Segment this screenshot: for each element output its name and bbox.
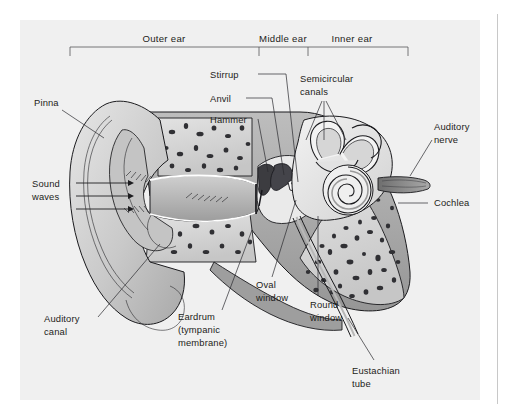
auditory-canal <box>150 176 256 222</box>
cochlea-spiral <box>323 165 373 215</box>
label-round-window-line1: Round <box>310 299 338 310</box>
section-label-middle-ear: Middle ear <box>259 33 307 44</box>
label-round-window-line2: window <box>309 312 342 323</box>
label-cochlea: Cochlea <box>434 197 470 208</box>
label-eustachian-line2: tube <box>352 378 371 389</box>
label-hammer: Hammer <box>210 114 247 125</box>
label-auditory-nerve-line1: Auditory <box>434 121 470 132</box>
label-semicircular-line2: canals <box>300 86 328 97</box>
label-auditory-canal-line2: canal <box>44 326 67 337</box>
label-eardrum-line2: (tympanic <box>178 324 220 335</box>
label-eustachian-line1: Eustachian <box>352 365 400 376</box>
ear-anatomy-figure: Outer ear Middle ear Inner ear <box>0 0 513 418</box>
label-stirrup: Stirrup <box>210 69 239 80</box>
label-semicircular-line1: Semicircular <box>300 73 353 84</box>
label-auditory-nerve-line2: nerve <box>434 134 458 145</box>
section-label-inner-ear: Inner ear <box>331 33 373 44</box>
label-auditory-canal-line1: Auditory <box>44 313 80 324</box>
section-label-outer-ear: Outer ear <box>142 33 186 44</box>
label-eardrum-line3: membrane) <box>178 337 227 348</box>
label-sound-waves-line1: Sound <box>32 178 60 189</box>
auditory-nerve <box>378 177 430 193</box>
label-eardrum-line1: Eardrum <box>178 311 215 322</box>
label-pinna: Pinna <box>34 97 59 108</box>
label-oval-window-line2: window <box>255 292 288 303</box>
label-oval-window-line1: Oval <box>256 279 276 290</box>
label-sound-waves-line2: waves <box>31 191 59 202</box>
ear-illustration <box>70 101 430 337</box>
label-anvil: Anvil <box>210 93 231 104</box>
